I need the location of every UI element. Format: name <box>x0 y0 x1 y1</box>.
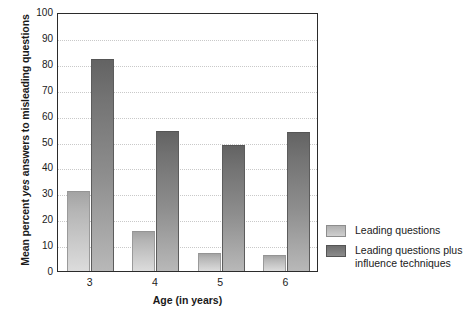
bar-5-series1 <box>198 253 221 271</box>
x-tick-label: 5 <box>200 276 240 288</box>
y-tick-label: 20 <box>24 215 53 225</box>
bar-4-series1 <box>132 231 155 271</box>
x-tick-label: 6 <box>265 276 305 288</box>
bar-3-series2 <box>91 59 114 271</box>
y-tick-label: 70 <box>24 86 53 96</box>
bar-3-series1 <box>67 191 90 271</box>
bar-4-series2 <box>156 131 179 271</box>
bars-layer <box>58 14 317 271</box>
legend-label: Leading questions <box>355 224 440 237</box>
y-tick-label: 0 <box>24 267 53 277</box>
y-tick-label: 60 <box>24 112 53 122</box>
y-tick-label: 30 <box>24 189 53 199</box>
y-tick-label: 100 <box>24 8 53 18</box>
plot-area <box>57 13 318 272</box>
bar-chart-figure: Mean percent yes answers to misleading q… <box>0 0 472 318</box>
legend-label: Leading questions plus influence techniq… <box>355 244 470 269</box>
legend-swatch <box>326 225 346 237</box>
chart-legend: Leading questionsLeading questions plus … <box>326 224 470 276</box>
x-tick-label: 3 <box>70 276 110 288</box>
bar-5-series2 <box>222 145 245 271</box>
bar-6-series2 <box>287 132 310 271</box>
bar-6-series1 <box>263 255 286 271</box>
x-axis-tick-labels: 3456 <box>57 276 318 290</box>
y-tick-label: 80 <box>24 60 53 70</box>
legend-swatch <box>326 245 346 257</box>
y-tick-label: 50 <box>24 138 53 148</box>
legend-item: Leading questions <box>326 224 470 237</box>
y-tick-label: 10 <box>24 241 53 251</box>
y-axis-tick-labels: 1009080706050403020100 <box>24 13 53 272</box>
legend-item: Leading questions plus influence techniq… <box>326 244 470 269</box>
y-tick-label: 40 <box>24 163 53 173</box>
y-tick-label: 90 <box>24 34 53 44</box>
x-axis-title: Age (in years) <box>57 294 318 306</box>
x-tick-label: 4 <box>135 276 175 288</box>
